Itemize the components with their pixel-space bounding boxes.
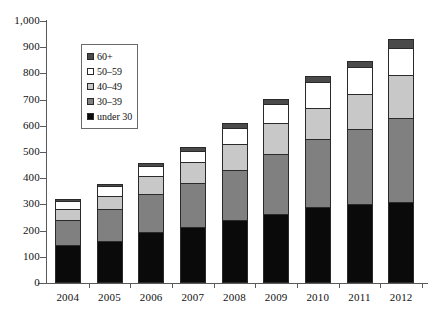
bar-segment <box>347 67 373 95</box>
bar-segment <box>263 214 289 283</box>
y-tick <box>40 126 46 127</box>
bar-segment <box>180 162 206 184</box>
y-tick <box>40 257 46 258</box>
y-tick-label: 200 <box>23 225 40 236</box>
y-tick <box>40 152 46 153</box>
x-tick <box>380 283 381 288</box>
x-tick <box>297 283 298 288</box>
bar-segment <box>222 220 248 283</box>
x-tick <box>89 283 90 288</box>
bar-segment <box>263 123 289 156</box>
bar-2006 <box>138 163 164 283</box>
bar-segment <box>388 202 414 283</box>
legend-item: 30–39 <box>87 95 133 108</box>
bar-segment <box>180 183 206 228</box>
y-tick-label: 500 <box>23 146 40 157</box>
bar-2008 <box>222 123 248 283</box>
legend-swatch-icon <box>87 53 94 60</box>
x-tick <box>339 283 340 288</box>
chart-root: 1,0009008007006005004003002001000 200420… <box>0 0 432 315</box>
legend-item: under 30 <box>87 110 133 123</box>
bar-segment <box>138 232 164 283</box>
legend-item: 50–59 <box>87 65 133 78</box>
bar-segment <box>388 48 414 77</box>
bar-segment <box>347 94 373 131</box>
legend-swatch-icon <box>87 113 94 120</box>
y-tick-label: 600 <box>23 120 40 131</box>
x-tick <box>172 283 173 288</box>
x-tick-label-2004: 2004 <box>47 291 89 303</box>
y-tick <box>40 100 46 101</box>
bar-2011 <box>347 61 373 283</box>
y-tick-label: 0 <box>34 277 40 288</box>
x-tick-label-2005: 2005 <box>89 291 131 303</box>
bar-segment <box>55 245 81 283</box>
legend-label: 60+ <box>97 52 113 62</box>
bar-2004 <box>55 199 81 283</box>
bar-segment <box>222 128 248 145</box>
y-tick-label: 400 <box>23 172 40 183</box>
y-tick-label: 700 <box>23 94 40 105</box>
y-tick <box>40 231 46 232</box>
legend-swatch-icon <box>87 83 94 90</box>
y-tick-label: 800 <box>23 67 40 78</box>
y-tick <box>40 47 46 48</box>
bar-segment <box>97 196 123 210</box>
y-tick <box>40 21 46 22</box>
x-tick-label-2010: 2010 <box>297 291 339 303</box>
x-tick-label-2011: 2011 <box>339 291 381 303</box>
bar-segment <box>305 139 331 208</box>
y-tick-label: 300 <box>23 198 40 209</box>
bar-segment <box>305 108 331 139</box>
bar-segment <box>263 154 289 214</box>
bar-segment <box>347 129 373 205</box>
bar-segment <box>138 176 164 194</box>
bar-2009 <box>263 99 289 283</box>
y-tick <box>40 283 46 284</box>
bar-2012 <box>388 39 414 283</box>
bar-segment <box>97 209 123 242</box>
legend-label: 30–39 <box>97 97 122 107</box>
bar-segment <box>388 118 414 203</box>
y-tick <box>40 178 46 179</box>
x-tick-label-2008: 2008 <box>214 291 256 303</box>
bar-segment <box>138 194 164 233</box>
x-tick-label-2007: 2007 <box>172 291 214 303</box>
y-tick <box>40 73 46 74</box>
legend-item: 40–49 <box>87 80 133 93</box>
y-tick <box>40 204 46 205</box>
legend-item: 60+ <box>87 50 133 63</box>
legend-swatch-icon <box>87 68 94 75</box>
bar-2010 <box>305 76 331 283</box>
bar-segment <box>222 144 248 172</box>
bar-segment <box>263 104 289 124</box>
x-axis-line <box>38 283 428 284</box>
bar-2005 <box>97 184 123 283</box>
y-tick-label: 900 <box>23 41 40 52</box>
bar-segment <box>305 82 331 110</box>
bar-segment <box>97 241 123 283</box>
x-tick-label-2009: 2009 <box>255 291 297 303</box>
bar-2007 <box>180 147 206 283</box>
chart-legend: 60+50–5940–4930–39under 30 <box>81 44 138 129</box>
x-tick <box>422 283 423 288</box>
x-tick <box>130 283 131 288</box>
x-tick <box>214 283 215 288</box>
bar-segment <box>347 204 373 283</box>
y-tick-label: 1,000 <box>14 15 40 26</box>
legend-swatch-icon <box>87 98 94 105</box>
bar-segment <box>388 75 414 118</box>
legend-label: 50–59 <box>97 67 122 77</box>
x-tick-label-2012: 2012 <box>380 291 422 303</box>
y-tick-label: 100 <box>23 251 40 262</box>
bar-segment <box>55 220 81 246</box>
bar-segment <box>180 227 206 283</box>
bar-segment <box>222 170 248 221</box>
bar-segment <box>305 207 331 283</box>
legend-label: under 30 <box>97 112 132 122</box>
legend-label: 40–49 <box>97 82 122 92</box>
x-tick <box>255 283 256 288</box>
x-tick-label-2006: 2006 <box>130 291 172 303</box>
